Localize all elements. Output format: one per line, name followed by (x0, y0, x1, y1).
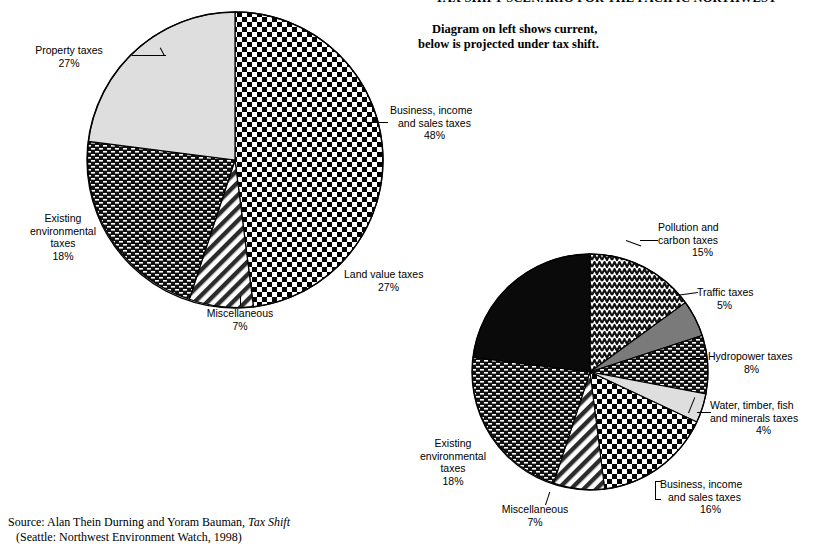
label-hydropower-taxes: Hydropower taxes 8% (708, 350, 793, 375)
source-line1-italic: Tax Shift (248, 515, 290, 529)
label-water-timber-fish-minerals: Water, timber, fish and minerals taxes 4… (710, 399, 798, 437)
label-existing-left-line2: environmental (2, 225, 124, 238)
leader-line-pollution (640, 240, 658, 241)
label-pollution-carbon: Pollution and carbon taxes 15% (658, 221, 719, 259)
leader-line-business-right-head (655, 481, 661, 482)
label-pollution-value: 15% (658, 246, 719, 259)
label-existing-left-value: 18% (2, 250, 124, 263)
subtitle-line-1: Diagram on left shows current, (418, 22, 758, 37)
label-land-name: Land value taxes (344, 268, 423, 281)
label-business-right-line2: and sales taxes (660, 491, 742, 504)
leader-line-water (697, 412, 711, 413)
label-property-taxes: Property taxes 27% (6, 44, 132, 69)
label-traffic-name: Traffic taxes (697, 286, 754, 299)
page-title: TAX SHIFT SCENARIO FOR THE PACIFIC NORTH… (396, 0, 816, 3)
label-traffic-value: 5% (697, 299, 754, 312)
label-business-left-value: 48% (390, 129, 472, 142)
pie-slice-land-value[interactable] (473, 254, 590, 372)
label-existing-environmental-left: Existing environmental taxes 18% (2, 212, 124, 262)
label-business-income-sales-left: Business, income and sales taxes 48% (390, 104, 472, 142)
leader-line-business-right (655, 481, 656, 499)
label-existing-left-line3: taxes (2, 237, 124, 250)
label-existing-left-line1: Existing (2, 212, 124, 225)
label-existing-right-value: 18% (392, 475, 514, 488)
label-pollution-line1: Pollution and (658, 221, 719, 234)
figure-canvas: TAX SHIFT SCENARIO FOR THE PACIFIC NORTH… (0, 0, 834, 554)
label-traffic-taxes: Traffic taxes 5% (697, 286, 754, 311)
label-misc-left-name: Miscellaneous (176, 307, 304, 320)
label-property-taxes-value: 27% (6, 57, 132, 70)
source-line1-prefix: Source: Alan Thein Durning and Yoram Bau… (8, 515, 248, 529)
leader-line-existing-left (120, 243, 150, 244)
label-misc-right-name: Miscellaneous (470, 503, 600, 516)
label-land-value: 27% (344, 281, 423, 294)
source-citation: Source: Alan Thein Durning and Yoram Bau… (8, 515, 428, 545)
leader-line-business-left (366, 122, 388, 123)
leader-line-pollution-tick (626, 240, 641, 246)
label-existing-right-line3: taxes (392, 462, 514, 475)
label-misc-left-value: 7% (176, 320, 304, 333)
label-water-value: 4% (710, 424, 798, 437)
label-miscellaneous-right: Miscellaneous 7% (470, 503, 600, 528)
label-business-left-line2: and sales taxes (390, 117, 472, 130)
label-existing-right-line2: environmental (392, 450, 514, 463)
leader-line-business-left-tick (366, 116, 367, 123)
label-business-income-sales-right: Business, income and sales taxes 16% (660, 478, 742, 516)
leader-line-business-right-foot (655, 499, 661, 500)
label-existing-environmental-right: Existing environmental taxes 18% (392, 437, 514, 487)
label-property-taxes-name: Property taxes (6, 44, 132, 57)
label-hydropower-name: Hydropower taxes (708, 350, 793, 363)
source-line2: (Seattle: Northwest Environment Watch, 1… (8, 530, 428, 545)
label-existing-right-line1: Existing (392, 437, 514, 450)
label-business-left-line1: Business, income (390, 104, 472, 117)
pie-slice-business-income-sales[interactable] (235, 12, 383, 307)
pie-slice-property-taxes[interactable] (88, 12, 235, 160)
label-pollution-line2: carbon taxes (658, 234, 719, 247)
subtitle-block: Diagram on left shows current, below is … (418, 22, 758, 52)
label-land-value-taxes: Land value taxes 27% (344, 268, 423, 293)
label-business-right-line1: Business, income (660, 478, 742, 491)
label-business-right-value: 16% (660, 503, 742, 516)
leader-line-property (132, 55, 166, 56)
leader-line-misc-left (240, 296, 241, 306)
subtitle-line-2: below is projected under tax shift. (418, 37, 758, 52)
label-miscellaneous-left: Miscellaneous 7% (176, 307, 304, 332)
label-water-line1: Water, timber, fish (710, 399, 798, 412)
label-misc-right-value: 7% (470, 516, 600, 529)
label-hydropower-value: 8% (708, 363, 793, 376)
leader-line-hydropower (690, 358, 706, 359)
label-water-line2: and minerals taxes (710, 412, 798, 425)
